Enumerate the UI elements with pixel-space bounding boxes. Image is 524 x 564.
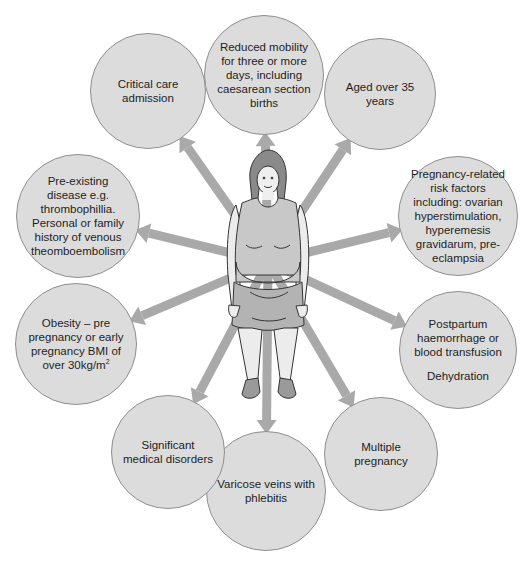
risk-node-label: Critical care admission (91, 77, 205, 105)
risk-node-pre-existing-disease: Pre-existing disease e.g. thrombophillia… (16, 154, 140, 278)
risk-node-pregnancy-related: Pregnancy-related risk factors including… (398, 156, 518, 276)
superscript: 2 (106, 358, 110, 365)
risk-node-label: Reduced mobility for three or more days,… (205, 40, 323, 110)
risk-node-multiple-pregnancy: Multiple pregnancy (324, 397, 438, 511)
risk-node-significant-medical: Significant medical disorders (111, 395, 225, 509)
risk-node-label: Pre-existing disease e.g. thrombophillia… (17, 174, 139, 258)
risk-node-critical-care: Critical care admission (90, 33, 206, 149)
risk-node-obesity: Obesity – pre pregnancy or early pregnan… (15, 283, 137, 405)
arrow-shaft-reduced-mobility (266, 146, 268, 262)
risk-node-label: Postpartum haemorrhage or blood transfus… (400, 317, 516, 359)
risk-node-label: Pregnancy-related risk factors including… (399, 167, 517, 265)
risk-node-reduced-mobility: Reduced mobility for three or more days,… (204, 15, 324, 135)
risk-node-label: Obesity – pre pregnancy or early pregnan… (16, 316, 136, 372)
risk-node-label: Significant medical disorders (112, 438, 224, 466)
risk-node-postpartum: Postpartum haemorrhage or blood transfus… (399, 291, 517, 409)
risk-node-label: Multiple pregnancy (325, 440, 437, 468)
arrow-shaft-varicose-veins (267, 262, 268, 420)
risk-node-label: Aged over 35 years (325, 80, 435, 108)
risk-node-label: Varicose veins with phlebitis (207, 477, 325, 505)
risk-node-label-secondary: Dehydration (417, 369, 499, 383)
risk-node-aged-over-35: Aged over 35 years (324, 38, 436, 150)
vte-risk-factors-diagram: Reduced mobility for three or more days,… (0, 0, 524, 564)
